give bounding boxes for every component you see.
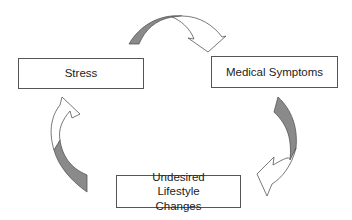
node-label: Undesired Lifestyle Changes <box>135 170 222 213</box>
node-undesired-lifestyle-changes: Undesired Lifestyle Changes <box>116 175 241 208</box>
node-medical-symptoms: Medical Symptoms <box>211 56 338 88</box>
cycle-diagram: Stress Medical Symptoms Undesired Lifest… <box>0 0 352 220</box>
arrow-stress-to-medical-icon <box>129 16 226 52</box>
node-stress: Stress <box>18 58 144 89</box>
arrow-lifestyle-to-stress-icon <box>51 97 87 192</box>
node-label: Medical Symptoms <box>226 65 323 79</box>
arrow-medical-to-lifestyle-icon <box>257 97 296 196</box>
node-label: Stress <box>65 66 98 80</box>
